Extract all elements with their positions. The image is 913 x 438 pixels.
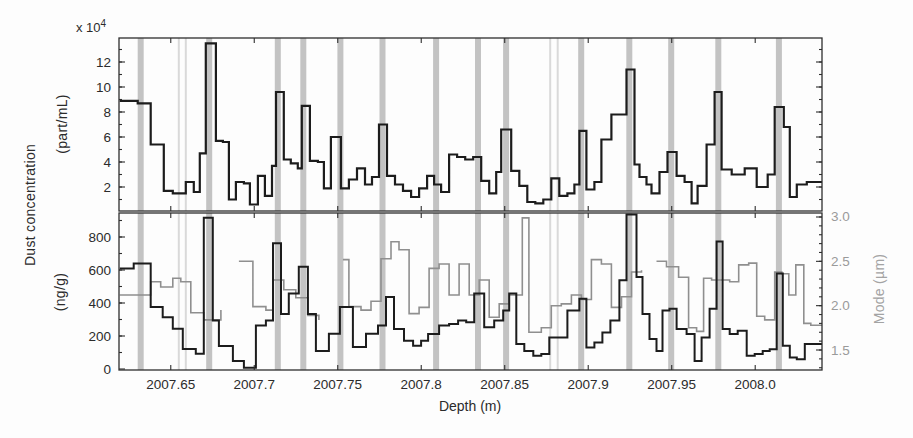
y-tick-label: 400	[88, 296, 111, 311]
shaded-band	[626, 38, 632, 211]
y-tick-label: 600	[88, 263, 111, 278]
shaded-band	[578, 213, 584, 370]
y-tick-label: 6	[103, 130, 111, 145]
x-tick-label: 2007.8	[401, 377, 442, 392]
x-tick-label: 2007.75	[313, 377, 362, 392]
shaded-band	[300, 213, 306, 370]
y-axis-label-mode: Mode (µm)	[871, 254, 887, 325]
y-tick-label: 10	[96, 80, 111, 95]
exponent-prefix: x 10	[76, 20, 101, 35]
shaded-band	[206, 38, 212, 211]
shaded-band	[475, 213, 481, 370]
dust-record-figure: 2007.652007.72007.752007.82007.852007.92…	[0, 0, 913, 438]
shaded-band	[776, 38, 782, 211]
shaded-band	[503, 213, 509, 370]
x-tick-label: 2008.0	[735, 377, 776, 392]
x-tick-label: 2007.7	[234, 377, 275, 392]
y-tick-label: 800	[88, 230, 111, 245]
y-tick-label: 8	[103, 105, 111, 120]
x-tick-label: 2007.9	[568, 377, 609, 392]
shaded-band	[715, 38, 721, 211]
shaded-band	[433, 213, 439, 370]
shaded-band	[178, 38, 180, 211]
shaded-band	[668, 38, 674, 211]
shaded-band	[668, 213, 674, 370]
y-axis-exponent-label: x 104	[76, 18, 106, 35]
y-axis-units-part-per-ml: (part/mL)	[54, 94, 70, 154]
shaded-band	[503, 38, 509, 211]
y-tick-label: 4	[103, 155, 111, 170]
mode-tick-label: 1.5	[831, 343, 850, 358]
exponent-value: 4	[101, 18, 107, 29]
shaded-band	[206, 213, 212, 370]
y-tick-label: 0	[103, 362, 111, 377]
x-axis-label-depth: Depth (m)	[439, 398, 501, 414]
shaded-band	[475, 38, 481, 211]
y-tick-label: 12	[96, 55, 111, 70]
chart-canvas: 2007.652007.72007.752007.82007.852007.92…	[0, 0, 913, 438]
x-tick-label: 2007.85	[480, 377, 529, 392]
mode-tick-label: 2.0	[831, 298, 850, 313]
y-axis-label-dust-concentration: Dust concentration	[22, 144, 38, 266]
y-axis-units-ng-per-g: (ng/g)	[52, 273, 68, 311]
x-tick-label: 2007.95	[647, 377, 696, 392]
x-tick-label: 2007.65	[146, 377, 195, 392]
shaded-band	[178, 213, 180, 370]
shaded-band	[557, 213, 559, 370]
shaded-band	[337, 213, 343, 370]
y-tick-label: 200	[88, 329, 111, 344]
shaded-band	[275, 213, 281, 370]
mode-tick-label: 3.0	[831, 209, 850, 224]
mode-tick-label: 2.5	[831, 254, 850, 269]
shaded-band	[138, 38, 144, 211]
shaded-band	[185, 213, 187, 370]
shaded-band	[138, 213, 144, 370]
y-tick-label: 2	[103, 180, 111, 195]
